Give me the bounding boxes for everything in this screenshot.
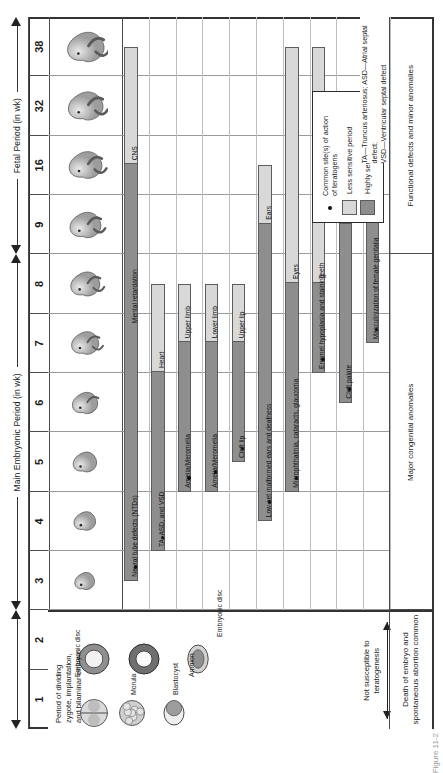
embryo-illustration-cell: [48, 254, 122, 313]
week-label-6: 6: [29, 373, 49, 432]
week-label-38: 38: [29, 17, 49, 76]
embryo-figure-icon: [62, 499, 108, 543]
segment-divider: [179, 341, 190, 342]
stage-one-note: Not susceptible to teratogenesis: [362, 618, 382, 723]
week-divider: [29, 372, 49, 373]
embryo-figure-icon: [62, 84, 108, 128]
period-bracket-label: Fetal Period (in wk): [12, 92, 22, 179]
week-divider: [29, 194, 49, 195]
anomaly-label: Cleft palate: [346, 365, 353, 399]
week-divider: [29, 135, 49, 136]
dot-icon: [328, 202, 332, 215]
swatch-less-sensitive-icon: [342, 200, 357, 215]
period-bracket-embryonic: Main Embryonic Period (in wk): [8, 254, 26, 610]
stage-one-panel: Period of dividing zygote, implantation,…: [48, 610, 434, 729]
stage-one-drawing-blastocyst: [160, 699, 192, 727]
week-label-8: 8: [29, 254, 49, 313]
figure-caption: Figure 11-2: [431, 733, 440, 773]
teratogen-site-dot-icon: [295, 476, 298, 479]
week-axis: 123456789163238: [28, 17, 50, 729]
week-label-7: 7: [29, 314, 49, 373]
embryo-illustration-cell: [48, 432, 122, 491]
stage-one-drawing-morula: [118, 699, 150, 727]
critical-periods-chart: Main Embryonic Period (in wk)Fetal Perio…: [6, 17, 434, 729]
stage-one-label: Amnion: [188, 653, 195, 677]
legend-label-teratogen-site: Common site(s) of action of teratogens: [321, 116, 339, 196]
week-divider: [29, 431, 49, 432]
segment-less-sensitive: [286, 47, 297, 283]
segment-divider: [286, 282, 297, 283]
swatch-highly-sensitive-icon: [360, 200, 375, 215]
summary-embryonic: Major congenital anomalies: [390, 254, 432, 610]
outcome-summary-band: Death of embryo and spontaneous abortion…: [389, 17, 434, 729]
stage-one-drawing-implant: [78, 643, 114, 675]
week-label-4: 4: [29, 492, 49, 551]
embryo-illustration-cell: [48, 195, 122, 254]
week-label-32: 32: [29, 76, 49, 135]
embryo-illustration-cell: [48, 551, 122, 610]
week-label-9: 9: [29, 195, 49, 254]
embryo-illustration-cell: [48, 373, 122, 432]
stage-one-drawing-implant2: [128, 643, 164, 675]
segment-divider: [152, 371, 163, 372]
summary-separator: [390, 253, 432, 254]
embryo-illustration-cell: [48, 314, 122, 373]
week-divider: [29, 550, 49, 551]
anomaly-label: Masculinization of female genitalia: [373, 237, 380, 339]
week-divider: [29, 75, 49, 76]
stage-one-label: Morula: [130, 674, 137, 695]
legend-label-less-sensitive: Less sensitive period: [345, 127, 354, 194]
anomaly-label-secondary: Mental retardation: [132, 269, 139, 323]
week-label-1: 1: [29, 670, 49, 729]
embryo-figure-icon: [62, 143, 108, 187]
anomaly-label: Amelia/Meromelia: [212, 434, 219, 488]
period-bracket-label: Main Embryonic Period (in wk): [12, 367, 22, 497]
week-label-5: 5: [29, 432, 49, 491]
period-bracket-fetal: Fetal Period (in wk): [8, 17, 26, 254]
week-label-3: 3: [29, 551, 49, 610]
week-divider: [29, 609, 49, 610]
week-divider: [29, 253, 49, 254]
teratogen-site-dot-icon: [161, 536, 164, 539]
organ-label: Upper lip: [239, 312, 246, 339]
embryo-illustration-cell: [48, 492, 122, 551]
embryo-illustration-cell: [48, 136, 122, 195]
organ-label: Eyes: [293, 264, 300, 279]
embryo-figure-icon: [62, 321, 108, 365]
summary-fetal: Functional defects and minor anomalies: [390, 17, 432, 254]
stage-one-drawing-zygote: [79, 698, 113, 728]
week-label-2: 2: [29, 610, 49, 669]
embryo-illustration-cell: [48, 76, 122, 135]
summary-separator: [390, 609, 432, 610]
embryo-figure-icon: [62, 381, 108, 425]
stage-one-label: Embryonic disc: [74, 630, 81, 677]
week-divider: [29, 669, 49, 670]
segment-divider: [233, 341, 244, 342]
organ-label: Heart: [159, 352, 166, 368]
teratogen-site-dot-icon: [321, 358, 324, 361]
segment-divider: [206, 341, 217, 342]
embryo-figure-icon: [62, 440, 108, 484]
period-brackets: Main Embryonic Period (in wk)Fetal Perio…: [6, 17, 28, 729]
week-divider: [29, 313, 49, 314]
anomaly-label: Microphthalmia, cataracts, glaucoma: [293, 379, 300, 488]
segment-divider: [259, 223, 270, 224]
teratogen-site-dot-icon: [134, 565, 137, 568]
summary-early: Death of embryo and spontaneous abortion…: [390, 610, 432, 729]
embryo-figure-icon: [62, 262, 108, 306]
organ-label: CNS: [132, 146, 139, 160]
teratogen-site-dot-icon: [187, 476, 190, 479]
segment-divider: [125, 163, 136, 164]
not-susceptible-arrow-icon: [387, 622, 388, 719]
embryo-figure-icon: [62, 25, 108, 69]
organ-label: Ears: [266, 206, 273, 220]
period-bracket-early: [8, 610, 26, 729]
anomaly-label: Enamel hypoplasia and staining: [319, 275, 326, 369]
week-label-16: 16: [29, 136, 49, 195]
teratogen-site-dot-icon: [268, 500, 271, 503]
legend-item-teratogen-site: Common site(s) of action of teratogens: [321, 99, 339, 215]
embryo-figure-icon: [62, 203, 108, 247]
embryo-figure-icon: [62, 559, 108, 603]
embryo-illustration-cell: [48, 17, 122, 76]
